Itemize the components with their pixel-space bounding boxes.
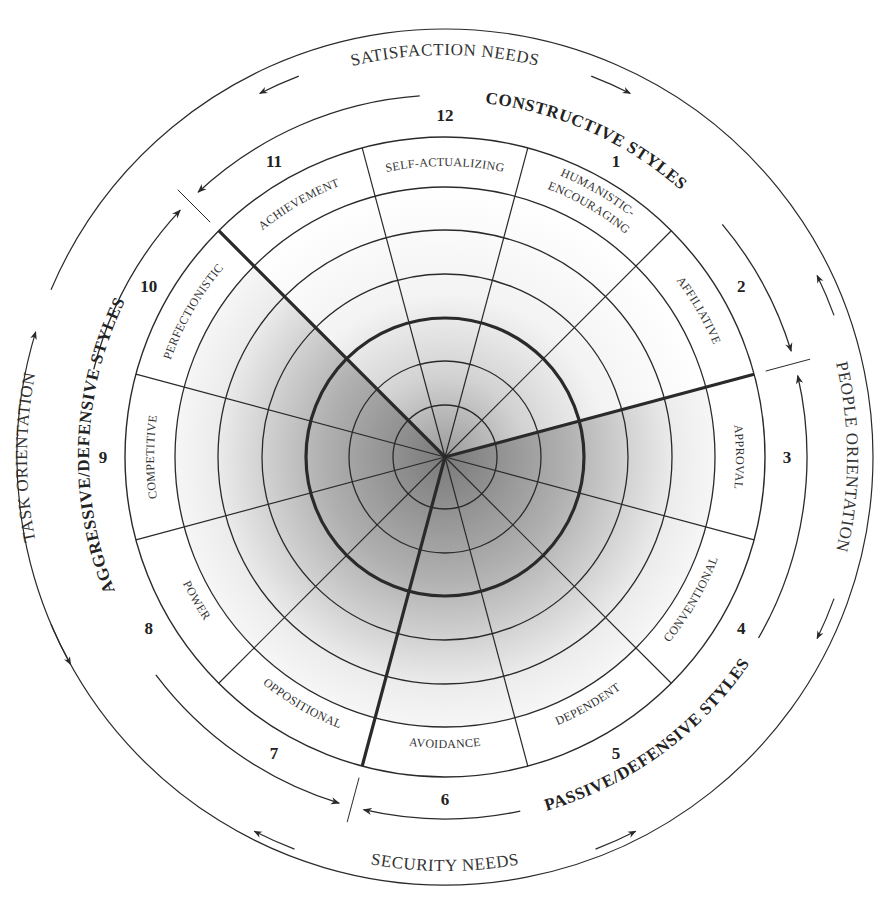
sector-number-1: 1 xyxy=(612,152,621,171)
sector-number-9: 9 xyxy=(99,448,108,467)
aggressive-arc-lower xyxy=(156,675,339,803)
security-needs-label: SECURITY NEEDS xyxy=(370,849,521,875)
boundary-tick xyxy=(347,778,359,822)
satisfaction-arrow-left-icon xyxy=(260,76,299,93)
circumplex-diagram: HUMANISTIC-ENCOURAGINGAFFILIATIVEAPPROVA… xyxy=(0,0,894,911)
security-arrow-left-icon xyxy=(254,831,294,849)
sector-label-avoidance: AVOIDANCE xyxy=(408,735,481,751)
satisfaction-arrow-right-icon xyxy=(591,76,630,93)
sector-label-competitive: COMPETITIVE xyxy=(143,414,160,500)
security-arrow-right-icon xyxy=(596,831,636,849)
satisfaction-needs-label: SATISFACTION NEEDS xyxy=(349,40,542,70)
sector-number-10: 10 xyxy=(140,277,157,296)
aggressive-defensive-styles-label: AGGRESSIVE/DEFENSIVE STYLES xyxy=(74,294,129,596)
sector-number-3: 3 xyxy=(783,448,792,467)
people-arrow-up-icon xyxy=(817,276,834,316)
task-arrow-down-icon xyxy=(51,624,71,664)
sector-number-2: 2 xyxy=(737,277,746,296)
sector-number-8: 8 xyxy=(145,619,154,638)
passive-arc-upper xyxy=(759,376,807,638)
boundary-tick xyxy=(178,190,211,223)
sector-number-6: 6 xyxy=(441,790,450,809)
passive-arc-lower xyxy=(364,810,521,819)
boundary-tick xyxy=(766,359,810,371)
circumplex-svg: HUMANISTIC-ENCOURAGINGAFFILIATIVEAPPROVA… xyxy=(0,0,894,911)
task-orientation-label: TASK ORIENTATION xyxy=(12,370,39,544)
people-orientation-label: PEOPLE ORIENTATION xyxy=(832,360,862,554)
sector-label-approval: APPROVAL xyxy=(731,424,747,490)
sector-number-5: 5 xyxy=(612,744,621,763)
sector-number-7: 7 xyxy=(270,744,279,763)
sector-number-4: 4 xyxy=(737,619,746,638)
constructive-arc-left xyxy=(198,96,420,192)
constructive-arc-right xyxy=(722,224,791,351)
sector-label-self-actualizing: SELF-ACTUALIZING xyxy=(384,155,506,175)
sector-number-11: 11 xyxy=(266,152,282,171)
sector-number-12: 12 xyxy=(437,106,454,125)
people-arrow-down-icon xyxy=(817,599,834,639)
